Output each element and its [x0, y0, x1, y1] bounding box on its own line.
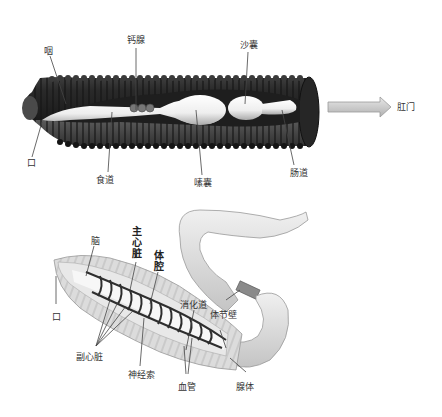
label-crop: 嗉囊 — [194, 178, 212, 188]
label-blood-vessels: 血管 — [178, 382, 196, 392]
label-digestive-tract: 消化道 — [180, 300, 207, 310]
label-brain: 脑 — [91, 236, 100, 246]
label-anus: 肛门 — [397, 102, 415, 112]
label-gizzard: 沙囊 — [240, 40, 258, 50]
direction-arrow — [328, 97, 391, 117]
worm-digestive-illustration — [0, 0, 442, 417]
label-esophagus: 食道 — [96, 175, 114, 185]
worm-body-cutaway — [22, 75, 319, 149]
label-intestine: 肠道 — [290, 168, 308, 178]
label-calciferous-gland: 钙腺 — [127, 35, 145, 45]
label-coelom: 体腔 — [153, 250, 164, 272]
label-pharynx: 咽 — [44, 46, 53, 56]
calciferous-glands — [130, 104, 154, 112]
label-segment-wall: 体节壁 — [210, 310, 237, 320]
earthworm-diagram: 咽 钙腺 沙囊 肛门 口 食道 嗉囊 肠道 脑 主心脏 体腔 口 消化道 体节壁… — [0, 0, 442, 417]
label-mouth-bottom: 口 — [52, 312, 61, 322]
label-mouth-top: 口 — [27, 158, 36, 168]
worm-internal-illustration — [54, 210, 308, 370]
label-accessory-hearts: 副心脏 — [76, 352, 103, 362]
label-main-heart: 主心脏 — [131, 226, 142, 259]
label-gland: 腺体 — [236, 382, 254, 392]
label-nerve-cord: 神经索 — [128, 370, 155, 380]
